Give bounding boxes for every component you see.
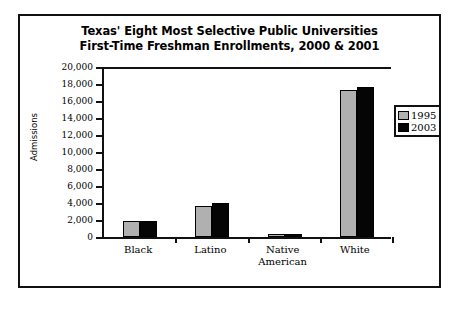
bar-group	[340, 69, 374, 237]
bar-group	[123, 69, 157, 237]
y-axis-tick-label: 16,000	[62, 96, 94, 106]
legend-item-1995[interactable]: 1995	[398, 109, 436, 121]
y-axis-tick-label: 14,000	[62, 113, 94, 123]
x-axis-separator	[175, 237, 177, 243]
bar-black-1995[interactable]	[123, 221, 140, 237]
x-axis-separator	[248, 237, 250, 243]
bar-native-american-2003[interactable]	[285, 234, 302, 237]
y-axis-ticks: 20,00018,00016,00014,00012,00010,0008,00…	[20, 67, 102, 239]
chart-title-line-1: Texas' Eight Most Selective Public Unive…	[20, 24, 439, 39]
x-axis-label-latino: Latino	[174, 244, 246, 256]
y-axis-tick-label: 6,000	[67, 181, 93, 191]
legend-label-2003: 2003	[411, 122, 436, 133]
x-axis-label-line: American	[247, 256, 319, 268]
x-axis-separator	[320, 237, 322, 243]
chart-legend: 19952003	[394, 105, 441, 137]
chart-figure-frame: Texas' Eight Most Selective Public Unive…	[18, 14, 441, 288]
x-axis-label-line: Black	[102, 244, 174, 256]
x-axis-label-line: Latino	[174, 244, 246, 256]
x-axis-label-white: White	[319, 244, 391, 256]
bar-native-american-1995[interactable]	[268, 234, 285, 237]
plot-area	[102, 67, 391, 239]
bar-white-2003[interactable]	[357, 87, 374, 237]
legend-swatch-1995	[398, 111, 409, 120]
y-axis-tick-label: 10,000	[62, 147, 94, 157]
y-axis-tick-label: 0	[87, 232, 93, 242]
x-axis-labels: BlackLatinoNativeAmericanWhite	[102, 244, 391, 284]
bar-latino-1995[interactable]	[195, 206, 212, 237]
y-axis-tick-label: 4,000	[67, 198, 93, 208]
y-axis-tick-label: 20,000	[62, 62, 94, 72]
y-axis-tick-label: 2,000	[67, 215, 93, 225]
bar-black-2003[interactable]	[140, 221, 157, 237]
y-axis-tick-label: 8,000	[67, 164, 93, 174]
bar-group	[195, 69, 229, 237]
legend-label-1995: 1995	[411, 110, 436, 121]
y-axis-tick-label: 18,000	[62, 79, 94, 89]
bar-white-1995[interactable]	[340, 90, 357, 237]
x-axis-separator	[392, 237, 394, 243]
chart-title: Texas' Eight Most Selective Public Unive…	[20, 24, 439, 54]
y-axis-tick-label: 12,000	[62, 130, 94, 140]
x-axis-label-native-american: NativeAmerican	[247, 244, 319, 268]
chart-title-line-2: First-Time Freshman Enrollments, 2000 & …	[20, 39, 439, 54]
x-axis-label-line: White	[319, 244, 391, 256]
x-axis-label-black: Black	[102, 244, 174, 256]
x-axis-label-line: Native	[247, 244, 319, 256]
bars-layer	[104, 69, 391, 237]
bar-latino-2003[interactable]	[212, 203, 229, 237]
bar-group	[268, 69, 302, 237]
legend-swatch-2003	[398, 123, 409, 132]
legend-item-2003[interactable]: 2003	[398, 121, 436, 133]
